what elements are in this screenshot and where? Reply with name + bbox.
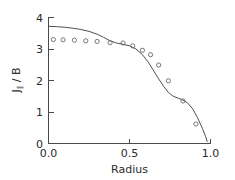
data-point-marker <box>84 39 88 43</box>
y-axis-title: J∥ / B <box>10 68 24 94</box>
y-axis-title-rest: / B <box>10 68 23 86</box>
series-0 <box>49 26 208 142</box>
x-axis-title: Radius <box>111 163 148 176</box>
y-tick-label-2: 2 <box>36 75 43 88</box>
plot-canvas: 4 3 2 1 0 0.0 0.5 1.0 Radius J∥ / B <box>0 0 235 180</box>
y-tick-label-1: 1 <box>36 106 43 119</box>
curve-model-curve <box>49 26 208 142</box>
series-1 <box>51 37 198 126</box>
x-tick-label-1: 0.5 <box>121 147 139 160</box>
svg-text:J∥ / B: J∥ / B <box>10 68 24 94</box>
data-point-marker <box>140 48 144 52</box>
data-point-marker <box>61 38 65 42</box>
data-point-marker <box>51 37 55 41</box>
y-tick-label-3: 3 <box>36 43 43 56</box>
data-point-marker <box>166 79 170 83</box>
chart-figure: 4 3 2 1 0 0.0 0.5 1.0 Radius J∥ / B <box>0 0 235 180</box>
x-tick-label-2: 1.0 <box>202 147 220 160</box>
data-point-marker <box>72 38 76 42</box>
data-point-marker <box>148 53 152 57</box>
data-point-marker <box>194 122 198 126</box>
y-tick-label-4: 4 <box>36 12 43 25</box>
data-point-marker <box>157 63 161 67</box>
series-layer <box>49 26 208 142</box>
x-tick-label-0: 0.0 <box>40 147 58 160</box>
data-point-marker <box>95 39 99 43</box>
y-axis-ticks <box>49 18 54 144</box>
x-axis-ticks <box>49 139 211 144</box>
